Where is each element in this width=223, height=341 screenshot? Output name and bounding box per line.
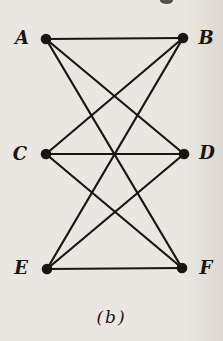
graph-canvas: ABCDEF (0, 0, 223, 341)
vertex-F (177, 263, 188, 274)
vertex-label-B: B (197, 27, 213, 48)
edge-CF (46, 154, 182, 268)
vertex-A (41, 34, 52, 45)
vertex-label-C: C (13, 143, 28, 164)
edge-EF (47, 268, 182, 269)
vertex-label-D: D (198, 142, 215, 163)
figure-caption: (b) (0, 307, 223, 327)
vertex-D (179, 149, 190, 160)
vertex-B (178, 33, 189, 44)
vertex-C (41, 149, 52, 160)
vertex-label-E: E (13, 257, 28, 278)
vertex-E (42, 264, 53, 275)
figure: ABCDEF (b) (0, 0, 223, 341)
edge-AB (46, 38, 183, 39)
vertex-label-F: F (199, 257, 214, 278)
vertex-label-A: A (13, 27, 29, 48)
